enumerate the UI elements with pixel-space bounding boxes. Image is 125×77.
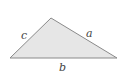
triangle-diagram: c a b	[0, 0, 125, 77]
side-label-b: b	[59, 61, 66, 74]
triangle-svg: c a b	[0, 0, 125, 77]
side-label-c: c	[21, 29, 27, 42]
side-label-a: a	[86, 27, 93, 40]
